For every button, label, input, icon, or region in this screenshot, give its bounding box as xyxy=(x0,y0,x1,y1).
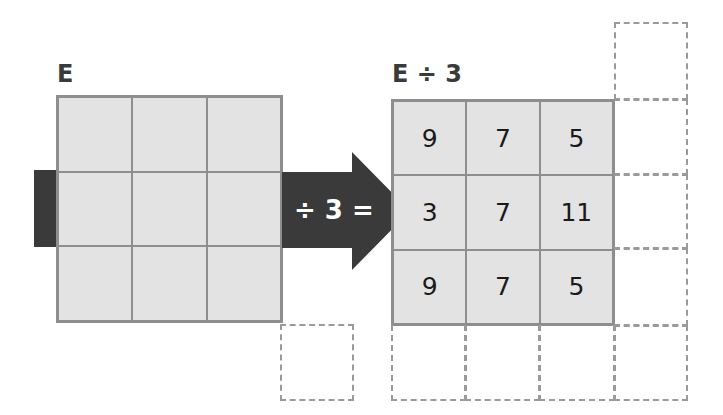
right-grid-label: E ÷ 3 xyxy=(392,60,462,88)
left-input-stub xyxy=(34,170,58,247)
result-cell: 9 xyxy=(393,250,466,324)
result-cell: 5 xyxy=(540,101,613,175)
result-cell: 11 xyxy=(540,175,613,249)
dashed-placeholder-cell xyxy=(614,325,688,401)
dashed-placeholder-cell xyxy=(614,99,688,175)
left-grid-e xyxy=(56,95,283,323)
operation-label: ÷ 3 = xyxy=(294,195,374,225)
left-cell xyxy=(207,172,281,247)
dashed-placeholder-cell xyxy=(614,174,688,249)
result-cell: 7 xyxy=(466,175,539,249)
left-cell xyxy=(58,97,132,172)
result-cell: 5 xyxy=(540,250,613,324)
dashed-placeholder-cell xyxy=(465,325,540,401)
right-grid-e-div-3: 9 7 5 3 7 11 9 7 5 xyxy=(391,99,615,326)
left-cell xyxy=(207,246,281,321)
left-cell xyxy=(132,172,206,247)
result-cell: 7 xyxy=(466,250,539,324)
dashed-placeholder-cell xyxy=(539,325,615,401)
dashed-placeholder-cell xyxy=(280,324,354,401)
result-cell: 3 xyxy=(393,175,466,249)
result-cell: 9 xyxy=(393,101,466,175)
left-cell xyxy=(58,246,132,321)
left-grid-label: E xyxy=(57,60,73,88)
left-cell xyxy=(132,246,206,321)
left-cell xyxy=(207,97,281,172)
left-cell xyxy=(58,172,132,247)
left-cell xyxy=(132,97,206,172)
dashed-placeholder-cell xyxy=(614,248,688,326)
result-cell: 7 xyxy=(466,101,539,175)
dashed-placeholder-cell xyxy=(614,22,688,100)
dashed-placeholder-cell xyxy=(391,325,466,401)
